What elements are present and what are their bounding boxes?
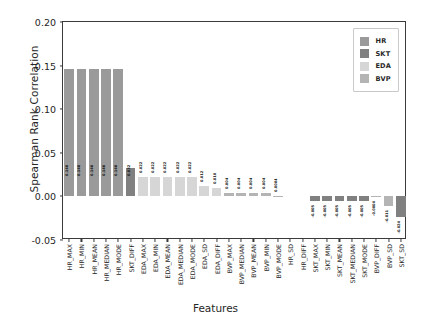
x-axis-tick-mark [388, 238, 389, 242]
x-axis-tick-mark [216, 238, 217, 242]
x-axis-tick-label: EDA_MEDIAN [176, 244, 183, 285]
x-axis-tick-mark [327, 238, 328, 242]
y-axis-tick-label: -0.05 [31, 235, 63, 246]
bar-value-label: 0.022 [139, 162, 143, 173]
plot-area: 0.200.150.100.050.00-0.050.146HR_MAX0.14… [62, 21, 406, 239]
x-axis-tick-mark [167, 238, 168, 242]
bar-value-label: -0.005 [348, 205, 352, 218]
x-axis-tick-mark [118, 238, 119, 242]
x-axis-tick-label: SKT_MIN [324, 244, 331, 271]
x-axis-tick-mark [155, 238, 156, 242]
x-axis-tick-mark [69, 238, 70, 242]
bar-value-label: 0.146 [77, 165, 81, 176]
legend-label: EDA [375, 62, 391, 70]
bar-eda-diff: 0.010 [212, 188, 222, 197]
bar-skt-min: -0.005 [322, 196, 332, 200]
bar-value-label: -0.024 [397, 221, 401, 234]
bar-skt-mean: -0.005 [335, 196, 345, 200]
bar-bvp-median: 0.004 [236, 193, 246, 196]
x-axis-tick-mark [142, 238, 143, 242]
bar-value-label: -0.0004 [372, 201, 376, 216]
bar-hr-mean: 0.146 [89, 69, 99, 196]
bar-value-label: 0.146 [90, 165, 94, 176]
x-axis-tick-mark [302, 238, 303, 242]
bar-bvp-min: 0.004 [261, 193, 271, 196]
bar-skt-mode: -0.005 [359, 196, 369, 200]
bar-skt-diff: 0.032 [126, 168, 136, 196]
legend-swatch-icon [360, 49, 369, 58]
x-axis-tick-mark [363, 238, 364, 242]
x-axis-tick-label: SKT_MEDIAN [348, 244, 355, 284]
bar-value-label: -0.005 [335, 205, 339, 218]
x-axis-tick-mark [290, 238, 291, 242]
bar-hr-max: 0.146 [64, 69, 74, 196]
bar-value-label: 0.022 [176, 162, 180, 173]
y-axis-tick-mark [60, 109, 64, 110]
bar-value-label: 0.004 [237, 178, 241, 189]
x-axis-tick-label: HR_MEAN [90, 244, 97, 275]
x-axis-tick-label: SKT_DIFF [127, 244, 134, 272]
bar-value-label: 0.146 [102, 165, 106, 176]
x-axis-tick-label: HR_MEDIAN [103, 244, 110, 281]
x-axis-tick-mark [241, 238, 242, 242]
legend-item-hr[interactable]: HR [360, 36, 391, 47]
legend-label: BVP [375, 75, 390, 83]
x-axis-tick-label: BVP_MIN [262, 244, 269, 271]
y-axis-tick-mark [60, 21, 64, 22]
bar-value-label: -0.005 [360, 205, 364, 218]
x-axis-tick-label: EDA_SD [201, 244, 208, 269]
legend-item-skt[interactable]: SKT [360, 48, 391, 59]
bar-bvp-max: 0.004 [224, 193, 234, 196]
x-axis-tick-mark [376, 238, 377, 242]
x-axis-tick-mark [93, 238, 94, 242]
bar-hr-median: 0.146 [101, 69, 111, 196]
x-axis-tick-label: SKT_SD [397, 244, 404, 267]
x-axis-tick-label: EDA_DIFF [213, 244, 220, 274]
bar-value-label: 0.012 [200, 171, 204, 182]
bar-value-label: 0.146 [65, 165, 69, 176]
x-axis-tick-label: BVP_MEAN [250, 244, 257, 278]
legend-label: SKT [375, 50, 390, 58]
x-axis-tick-mark [351, 238, 352, 242]
bar-value-label: 0.032 [127, 165, 131, 176]
x-axis-tick-mark [314, 238, 315, 242]
chart-legend: HRSKTEDABVP [353, 28, 399, 92]
bar-eda-sd: 0.012 [199, 186, 209, 196]
legend-swatch-icon [360, 74, 369, 83]
bar-eda-mean: 0.022 [163, 177, 173, 196]
x-axis-tick-mark [105, 238, 106, 242]
x-axis-tick-mark [339, 238, 340, 242]
bar-value-label: 0.022 [163, 162, 167, 173]
bar-skt-max: -0.005 [310, 196, 320, 200]
x-axis-tick-mark [277, 238, 278, 242]
x-axis-tick-label: SKT_MAX [311, 244, 318, 273]
bar-eda-min: 0.022 [150, 177, 160, 196]
x-axis-tick-mark [179, 238, 180, 242]
bar-eda-max: 0.022 [138, 177, 148, 196]
bar-value-label: 0.004 [262, 178, 266, 189]
x-axis-tick-label: BVP_MAX [225, 244, 232, 273]
legend-swatch-icon [360, 37, 369, 46]
y-axis-tick-mark [60, 152, 64, 153]
x-axis-tick-label: BVP_SD [385, 244, 392, 268]
x-axis-tick-label: SKT_MODE [361, 244, 368, 278]
x-axis-tick-label: EDA_MODE [189, 244, 196, 279]
x-axis-tick-label: EDA_MAX [139, 244, 146, 274]
y-axis-tick-mark [60, 196, 64, 197]
x-axis-tick-label: BVP_DIFF [373, 244, 380, 273]
bar-value-label: 0.022 [188, 162, 192, 173]
x-axis-tick-label: EDA_MEAN [164, 244, 171, 278]
x-axis-tick-mark [191, 238, 192, 242]
bar-eda-median: 0.022 [175, 177, 185, 196]
bar-value-label: -0.011 [385, 210, 389, 223]
legend-item-bvp[interactable]: BVP [360, 73, 391, 84]
bar-hr-min: 0.146 [77, 69, 87, 196]
x-axis-tick-label: HR_MAX [66, 244, 73, 270]
x-axis-tick-label: BVP_MODE [275, 244, 282, 278]
legend-item-eda[interactable]: EDA [360, 61, 391, 72]
x-axis-tick-label: SKT_MEAN [336, 244, 343, 277]
x-axis-tick-label: HR_SD [287, 244, 294, 265]
x-axis-tick-mark [228, 238, 229, 242]
x-axis-title: Features [0, 302, 431, 314]
bar-value-label: -0.005 [311, 205, 315, 218]
